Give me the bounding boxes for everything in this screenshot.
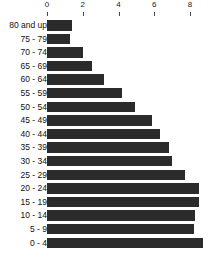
bar-track xyxy=(47,115,205,126)
category-label: 80 and up xyxy=(9,20,47,31)
category-label: 0 - 4 xyxy=(30,238,47,249)
bar-row: 10 - 14 xyxy=(0,209,210,223)
bar xyxy=(47,156,172,167)
x-axis-tick-mark xyxy=(190,12,191,16)
x-axis-tick-label: 2 xyxy=(81,0,85,9)
bar-track xyxy=(47,20,205,31)
bar xyxy=(47,20,72,31)
bar-track xyxy=(47,183,205,194)
bar-track xyxy=(47,34,205,45)
bar xyxy=(47,129,160,140)
category-label: 30 - 34 xyxy=(21,156,47,167)
x-axis-tick-mark xyxy=(47,12,48,16)
category-label: 45 - 49 xyxy=(21,115,47,126)
bar xyxy=(47,102,135,113)
category-label: 70 - 74 xyxy=(21,47,47,58)
bar xyxy=(47,238,203,249)
bar xyxy=(47,170,185,181)
bar-track xyxy=(47,224,205,235)
bar-row: 75 - 79 xyxy=(0,33,210,47)
x-axis-tick-label: 0 xyxy=(45,0,49,9)
category-label: 55 - 59 xyxy=(21,88,47,99)
bar xyxy=(47,142,169,153)
bar-row: 65 - 69 xyxy=(0,60,210,74)
bar-row: 50 - 54 xyxy=(0,101,210,115)
x-axis-tick-mark xyxy=(83,12,84,16)
bar-row: 40 - 44 xyxy=(0,128,210,142)
bar-row: 25 - 29 xyxy=(0,169,210,183)
bar xyxy=(47,224,194,235)
x-axis: 02468 xyxy=(0,0,210,19)
bar-row: 30 - 34 xyxy=(0,155,210,169)
bar-row: 55 - 59 xyxy=(0,87,210,101)
bar-track xyxy=(47,61,205,72)
category-label: 50 - 54 xyxy=(21,102,47,113)
category-label: 15 - 19 xyxy=(21,197,47,208)
bar-track xyxy=(47,210,205,221)
x-axis-tick-mark xyxy=(119,12,120,16)
bar-track xyxy=(47,170,205,181)
bar xyxy=(47,74,104,85)
bar xyxy=(47,183,199,194)
category-label: 20 - 24 xyxy=(21,183,47,194)
bar xyxy=(47,88,122,99)
category-label: 35 - 39 xyxy=(21,142,47,153)
x-axis-tick-label: 8 xyxy=(188,0,192,9)
category-label: 5 - 9 xyxy=(30,224,47,235)
category-label: 25 - 29 xyxy=(21,170,47,181)
bar-track xyxy=(47,142,205,153)
x-axis-tick-label: 4 xyxy=(116,0,120,9)
bar xyxy=(47,115,152,126)
bar-track xyxy=(47,197,205,208)
x-axis-tick-label: 6 xyxy=(152,0,156,9)
bar-track xyxy=(47,129,205,140)
bar-row: 80 and up xyxy=(0,19,210,33)
bar-track xyxy=(47,88,205,99)
bar-row: 0 - 4 xyxy=(0,237,210,251)
plot-area: 80 and up75 - 7970 - 7465 - 6960 - 6455 … xyxy=(0,19,210,259)
category-label: 75 - 79 xyxy=(21,34,47,45)
bar-track xyxy=(47,238,205,249)
bar-row: 45 - 49 xyxy=(0,114,210,128)
bar xyxy=(47,47,83,58)
bar-track xyxy=(47,156,205,167)
bar xyxy=(47,61,92,72)
bar-row: 60 - 64 xyxy=(0,73,210,87)
bar-track xyxy=(47,102,205,113)
bar-row: 15 - 19 xyxy=(0,196,210,210)
x-axis-tick-mark xyxy=(154,12,155,16)
category-label: 10 - 14 xyxy=(21,210,47,221)
category-label: 40 - 44 xyxy=(21,129,47,140)
bar-row: 35 - 39 xyxy=(0,141,210,155)
bar xyxy=(47,197,199,208)
bar-track xyxy=(47,74,205,85)
bar xyxy=(47,34,70,45)
population-bar-chart: 02468 80 and up75 - 7970 - 7465 - 6960 -… xyxy=(0,0,210,259)
bar xyxy=(47,210,195,221)
bar-row: 70 - 74 xyxy=(0,46,210,60)
category-label: 60 - 64 xyxy=(21,74,47,85)
bar-row: 20 - 24 xyxy=(0,182,210,196)
bar-track xyxy=(47,47,205,58)
category-label: 65 - 69 xyxy=(21,61,47,72)
bar-row: 5 - 9 xyxy=(0,223,210,237)
